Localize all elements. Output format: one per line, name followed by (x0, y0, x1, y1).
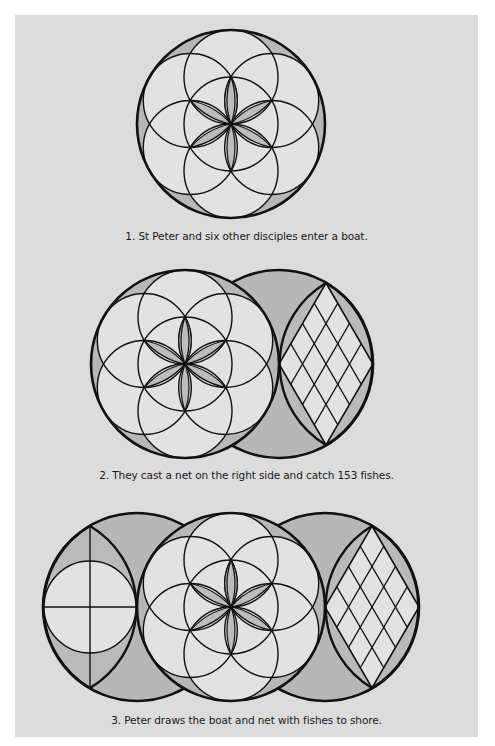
figure-2-caption: 2. They cast a net on the right side and… (15, 469, 478, 481)
figure-2-boat-and-net (91, 270, 373, 458)
figure-3-caption: 3. Peter draws the boat and net with fis… (15, 714, 478, 726)
figure-3-drawn-to-shore (43, 513, 419, 701)
figure-1-seed-of-life (137, 30, 325, 218)
figure-1-caption: 1. St Peter and six other disciples ente… (15, 230, 478, 242)
illustration-canvas (0, 0, 495, 746)
